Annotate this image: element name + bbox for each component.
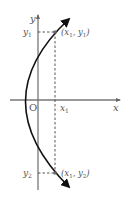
x-axis-label: x [113, 102, 119, 113]
parabola-diagram: y x O y1 y2 x1 (x1, y1) (x1, y2) [0, 0, 133, 198]
point-label-x1-y2: (x1, y2) [61, 168, 90, 179]
x1-label: x1 [60, 103, 69, 114]
y2-label: y2 [22, 168, 32, 179]
y1-label: y1 [22, 27, 32, 38]
point-x1-y2 [54, 172, 57, 175]
point-x1-y1 [54, 31, 57, 34]
origin-label: O [29, 102, 37, 113]
y-axis-label: y [29, 13, 36, 24]
point-label-x1-y1: (x1, y1) [61, 27, 90, 38]
